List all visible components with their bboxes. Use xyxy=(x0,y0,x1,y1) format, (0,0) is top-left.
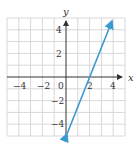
x-tick-label: 0 xyxy=(58,81,64,91)
x-tick-label: 4 xyxy=(110,81,116,91)
y-tick-label: 4 xyxy=(56,25,62,35)
x-axis-label: x xyxy=(128,72,134,83)
y-tick-label: 2 xyxy=(56,49,62,59)
y-tick-label: −2 xyxy=(51,96,64,106)
y-axis-label: y xyxy=(62,6,69,17)
x-tick-label: −2 xyxy=(37,81,50,91)
line-graph: x y −4 −2 0 2 4 4 2 −2 −4 xyxy=(0,0,137,148)
y-tick-label: −4 xyxy=(51,119,65,129)
x-tick-label: −4 xyxy=(13,81,27,91)
